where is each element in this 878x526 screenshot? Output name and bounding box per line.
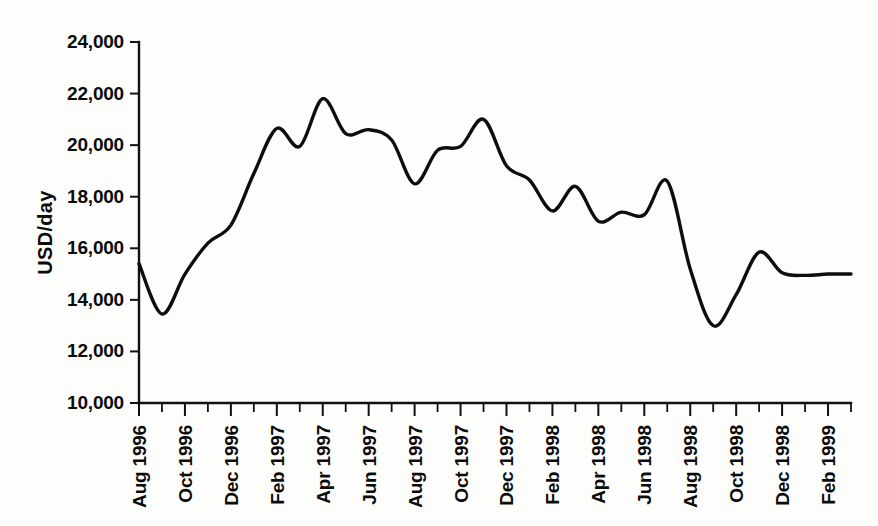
x-axis-tick-label: Feb 1997 bbox=[267, 425, 288, 505]
x-axis-tick-label: Feb 1999 bbox=[818, 425, 839, 505]
y-axis-tick-label: 14,000 bbox=[67, 289, 124, 310]
y-axis-tick-label: 16,000 bbox=[67, 237, 124, 258]
y-axis-tick-label: 18,000 bbox=[67, 186, 124, 207]
x-axis-tick-label: Aug 1997 bbox=[405, 425, 426, 508]
data-series-line bbox=[139, 99, 851, 327]
y-axis: 10,00012,00014,00016,00018,00020,00022,0… bbox=[67, 31, 139, 413]
y-axis-tick-label: 12,000 bbox=[67, 340, 124, 361]
x-axis-tick-label: Jun 1997 bbox=[359, 425, 380, 505]
x-axis-tick-label: Aug 1996 bbox=[129, 425, 150, 508]
x-axis-tick-label: Aug 1998 bbox=[680, 425, 701, 508]
y-axis-title-label: USD/day bbox=[34, 190, 56, 275]
line-chart-canvas: 10,00012,00014,00016,00018,00020,00022,0… bbox=[0, 0, 878, 526]
x-axis-tick-label: Dec 1997 bbox=[496, 425, 517, 506]
x-axis-tick-label: Apr 1998 bbox=[588, 425, 609, 504]
x-axis: Aug 1996Oct 1996Dec 1996Feb 1997Apr 1997… bbox=[129, 403, 851, 508]
x-axis-tick-label: Dec 1996 bbox=[221, 425, 242, 506]
x-axis-tick-label: Dec 1998 bbox=[772, 425, 793, 506]
y-axis-tick-label: 20,000 bbox=[67, 134, 124, 155]
chart-figure: 10,00012,00014,00016,00018,00020,00022,0… bbox=[0, 0, 878, 526]
y-axis-tick-label: 10,000 bbox=[67, 392, 124, 413]
y-axis-tick-label: 24,000 bbox=[67, 31, 124, 52]
x-axis-tick-label: Jun 1998 bbox=[634, 425, 655, 505]
y-axis-title: USD/day bbox=[34, 190, 56, 275]
x-axis-tick-label: Oct 1996 bbox=[175, 425, 196, 503]
y-axis-tick-label: 22,000 bbox=[67, 83, 124, 104]
x-axis-tick-label: Oct 1998 bbox=[726, 425, 747, 503]
x-axis-tick-label: Apr 1997 bbox=[313, 425, 334, 504]
x-axis-tick-label: Oct 1997 bbox=[451, 425, 472, 503]
series-line-usd-per-day bbox=[139, 99, 851, 327]
x-axis-tick-label: Feb 1998 bbox=[542, 425, 563, 505]
